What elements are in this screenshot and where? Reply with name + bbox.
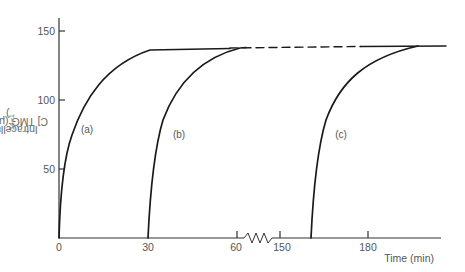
y-tick-50: 50 <box>43 163 55 175</box>
plateau-solid <box>361 46 446 47</box>
y-tick-labels: 150 100 50 <box>37 25 55 175</box>
label-b: (b) <box>173 129 185 140</box>
x-tick-180: 180 <box>359 241 377 253</box>
x-tick-60: 60 <box>230 241 242 253</box>
x-tick-0: 0 <box>56 241 62 253</box>
curve-labels: (a) (b) (c) <box>81 124 347 140</box>
x-tick-labels: 0 30 60 150 180 <box>56 241 377 253</box>
curve-b <box>148 48 246 239</box>
x-tick-30: 30 <box>142 241 154 253</box>
x-tick-150: 150 <box>273 241 291 253</box>
curve-a <box>59 49 230 239</box>
x-axis <box>59 231 441 243</box>
chart: 150 100 50 0 30 60 150 180 Time (min) (a… <box>0 0 465 272</box>
axis-break-zigzag <box>244 233 272 243</box>
y-tick-150: 150 <box>37 25 55 37</box>
curve-c <box>311 46 418 238</box>
x-axis-label: Time (min) <box>384 252 434 264</box>
label-c: (c) <box>335 129 347 140</box>
label-a: (a) <box>81 124 93 135</box>
y-label-post: ) <box>6 108 10 120</box>
plateau-dashed <box>230 47 361 49</box>
y-tick-100: 100 <box>37 94 55 106</box>
